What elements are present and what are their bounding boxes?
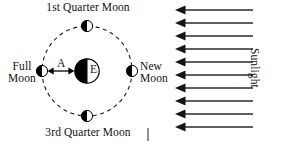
third-quarter-moon xyxy=(81,110,92,121)
label-full-moon-line2: Moon xyxy=(2,72,42,84)
label-full-moon: Full Moon xyxy=(2,60,42,84)
new-moon-dark-half xyxy=(126,65,132,76)
label-distance-a: A xyxy=(57,57,65,69)
label-new-moon: New Moon xyxy=(140,60,184,84)
sunlight-ray xyxy=(175,58,253,67)
label-third-quarter-moon: 3rd Quarter Moon xyxy=(0,126,176,138)
label-sunlight: Sunlight xyxy=(249,48,261,88)
sunlight-ray xyxy=(175,19,253,28)
sunlight-rays xyxy=(170,0,296,146)
sunlight-ray xyxy=(175,71,253,80)
distance-arrowhead-left xyxy=(48,68,54,75)
label-first-quarter-moon: 1st Quarter Moon xyxy=(0,1,176,13)
sunlight-ray xyxy=(175,110,253,119)
sunlight-ray xyxy=(175,32,253,41)
third-quarter-moon-dark-half xyxy=(81,110,87,121)
label-new-moon-line2: Moon xyxy=(140,72,184,84)
distance-arrowhead-right xyxy=(68,68,74,75)
moon-phases-diagram: 1st Quarter Moon 3rd Quarter Moon Full M… xyxy=(0,0,296,146)
sunlight-ray-group xyxy=(175,6,253,132)
earth-dark-half xyxy=(75,59,87,83)
sunlight-ray xyxy=(175,45,253,54)
first-quarter-moon xyxy=(81,20,92,31)
sunlight-ray xyxy=(175,6,253,15)
sunlight-ray xyxy=(175,84,253,93)
first-quarter-moon-dark-half xyxy=(81,20,87,31)
sunlight-ray xyxy=(175,97,253,106)
label-full-moon-line1: Full xyxy=(2,60,42,72)
label-new-moon-line1: New xyxy=(140,60,184,72)
label-earth: E xyxy=(90,63,97,75)
sunlight-ray xyxy=(175,123,253,132)
new-moon xyxy=(126,65,137,76)
